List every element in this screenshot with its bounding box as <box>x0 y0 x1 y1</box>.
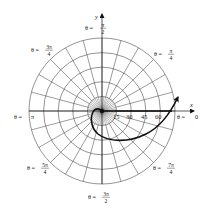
tick-label-45: 45 <box>141 113 147 120</box>
y-axis-label: y <box>94 13 98 20</box>
fraction-denominator: 2 <box>105 198 108 204</box>
fraction-denominator: 2 <box>102 29 105 35</box>
grid-spoke <box>106 125 121 181</box>
tick-label-60: 60 <box>155 113 161 120</box>
grid-spoke <box>112 121 153 162</box>
grid-spoke <box>66 124 95 175</box>
fraction-numerator: 3π <box>46 44 52 50</box>
fraction-numerator: π <box>170 48 173 54</box>
grid-spoke <box>31 92 87 107</box>
x-axis-label: x <box>189 101 193 108</box>
grid-spoke <box>106 40 121 96</box>
angle-label-prefix: θ = <box>88 193 97 200</box>
fraction-denominator: 4 <box>170 55 173 61</box>
fraction-numerator: 3π <box>103 191 109 197</box>
grid-spoke <box>50 121 91 162</box>
grid-spoke <box>66 48 95 99</box>
grid-spoke <box>39 75 90 104</box>
grid-spoke <box>116 92 172 107</box>
polar-diagram: x y 15 30 45 60 θ = 0 θ = π 2 θ = π 4 θ … <box>0 0 205 213</box>
angle-label-prefix: θ = <box>14 113 23 120</box>
angle-label-prefix: θ = <box>27 164 36 171</box>
grid-spoke <box>31 115 87 130</box>
angle-label-prefix: θ = <box>177 113 186 120</box>
angle-label-value: π <box>31 113 35 120</box>
angle-label-theta-3pi-2: θ = 3π 2 <box>88 191 110 204</box>
angle-label-theta-pi-4: θ = π 4 <box>154 48 174 61</box>
spiral-path <box>91 97 178 140</box>
grid-spoke <box>115 75 166 104</box>
grid-spoke <box>83 40 98 96</box>
fraction-numerator: 7π <box>168 162 174 168</box>
grid-spoke <box>109 48 138 99</box>
angle-label-value: 0 <box>195 113 198 120</box>
fraction-denominator: 4 <box>44 169 47 175</box>
grid-spoke <box>50 59 91 100</box>
fraction-numerator: 5π <box>42 162 48 168</box>
angle-label-prefix: θ = <box>85 24 94 31</box>
grid-spoke <box>115 118 166 147</box>
angle-label-theta-pi-2: θ = π 2 <box>85 22 106 35</box>
grid-spoke <box>112 59 153 100</box>
tick-label-15: 15 <box>113 113 119 120</box>
fraction-numerator: π <box>102 22 105 28</box>
angle-label-prefix: θ = <box>31 46 40 53</box>
grid-spoke <box>109 124 138 175</box>
angle-label-theta-0: θ = 0 <box>177 113 198 120</box>
angle-label-theta-3pi-4: θ = 3π 4 <box>31 44 53 57</box>
radial-tick-labels: 15 30 45 60 <box>113 113 161 120</box>
angle-label-theta-pi: θ = π <box>14 113 35 120</box>
angle-label-prefix: θ = <box>154 50 163 57</box>
tick-label-30: 30 <box>126 113 132 120</box>
angle-label-theta-7pi-4: θ = 7π 4 <box>153 162 175 175</box>
grid-spoke <box>83 125 98 181</box>
angle-label-theta-5pi-4: θ = 5π 4 <box>27 162 49 175</box>
origin-point <box>100 109 104 113</box>
fraction-denominator: 4 <box>48 51 51 57</box>
angle-label-prefix: θ = <box>153 164 162 171</box>
grid-spoke <box>39 118 90 147</box>
fraction-denominator: 4 <box>170 169 173 175</box>
